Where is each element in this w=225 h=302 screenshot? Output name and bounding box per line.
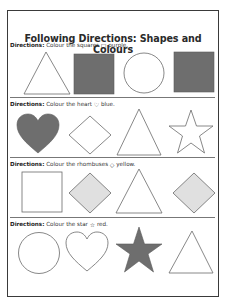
directions-label: Directions: — [10, 221, 44, 227]
triangle-outline — [115, 168, 163, 214]
triangle-outline — [116, 108, 162, 156]
circle-outline — [122, 51, 166, 95]
square-filled — [73, 53, 115, 95]
directions-rhombuses: Directions: Colour the rhombuses ◇ yello… — [10, 161, 135, 168]
section-divider — [10, 97, 215, 98]
directions-label: Directions: — [10, 161, 44, 167]
directions-squares: Directions: Colour the squares □ purple. — [10, 42, 128, 49]
heart-filled — [16, 113, 60, 155]
triangle-outline — [22, 51, 72, 95]
rhombus-icon: ◇ — [110, 161, 115, 168]
directions-heart: Directions: Colour the heart ♡ blue. — [10, 101, 115, 108]
section-divider — [10, 157, 215, 158]
square-outline — [21, 171, 63, 213]
circle-outline — [17, 231, 61, 275]
rhombus-outline — [68, 115, 112, 155]
heart-outline — [65, 231, 109, 273]
star-icon: ☆ — [90, 221, 95, 228]
triangle-outline — [168, 230, 214, 274]
heart-icon: ♡ — [94, 101, 99, 108]
star-filled — [115, 226, 163, 274]
directions-star: Directions: Colour the star ☆ red. — [10, 221, 108, 228]
rhombus-light — [172, 172, 216, 214]
square-icon: □ — [101, 42, 107, 49]
directions-label: Directions: — [10, 101, 44, 107]
rhombus-light — [68, 172, 112, 214]
square-filled — [173, 51, 215, 93]
star-outline — [168, 109, 214, 155]
directions-label: Directions: — [10, 42, 44, 48]
section-divider — [10, 217, 215, 218]
worksheet: Following Directions: Shapes and Colours… — [7, 10, 219, 297]
